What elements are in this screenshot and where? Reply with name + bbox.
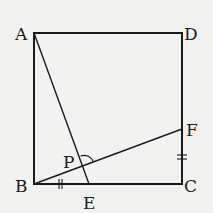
geometry-diagram: A D B C E F P (0, 0, 213, 213)
label-c: C (184, 176, 197, 196)
segment-ae (34, 33, 89, 184)
segment-bf (34, 129, 182, 184)
angle-arc-p (81, 155, 94, 162)
label-f: F (186, 120, 198, 140)
label-e: E (83, 193, 95, 213)
label-p: P (63, 152, 74, 172)
square-abcd (34, 33, 182, 184)
label-a: A (14, 24, 28, 44)
label-d: D (184, 24, 198, 44)
label-b: B (15, 176, 28, 196)
